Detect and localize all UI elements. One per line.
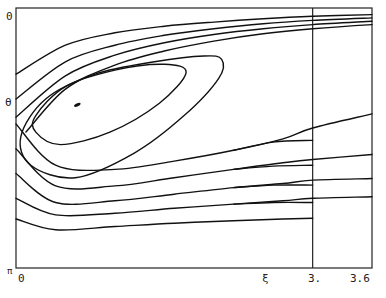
plot-frame [16,8,372,268]
curve-lower-4 [16,197,372,216]
x-axis-label-xi: ξ [262,272,269,285]
curve-lower-5 [16,218,313,230]
curve-lower-3b [234,185,313,188]
plot-border [16,8,372,268]
curve-separatrix-loop [20,56,223,178]
tick-labels: 0 θ π 0 ξ 3. 3.6 [5,10,370,285]
x-tick-label-3: 3. [308,272,321,285]
critical-point-marker [73,102,81,108]
phase-plot: 0 θ π 0 ξ 3. 3.6 [0,0,386,298]
x-tick-label-3-6: 3.6 [350,272,370,285]
curve-upper-3 [16,21,372,117]
y-tick-label-pi: π [7,266,13,276]
curves-group [16,15,372,230]
curve-lower-1b [234,140,313,150]
curve-lower-1 [16,114,372,171]
y-tick-label-0: 0 [6,10,13,23]
y-axis-label-theta: θ [5,96,12,109]
x-tick-label-0: 0 [18,272,25,285]
